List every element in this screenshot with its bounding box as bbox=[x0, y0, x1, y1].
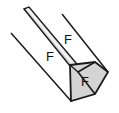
diagram-background bbox=[0, 0, 119, 113]
figure-canvas: F F F bbox=[0, 0, 119, 113]
force-label-left: F bbox=[46, 49, 54, 64]
diagram-svg: F F F bbox=[0, 0, 119, 113]
force-label-head: F bbox=[81, 74, 89, 89]
force-label-upper: F bbox=[64, 32, 72, 47]
